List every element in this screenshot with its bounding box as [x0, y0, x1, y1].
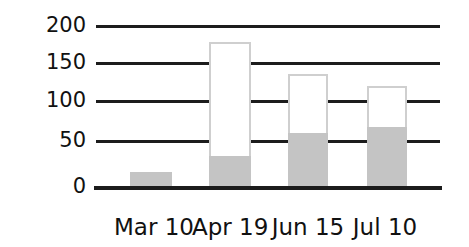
- ytick-label-150: 150: [14, 52, 86, 73]
- x-axis: Mar 10 Apr 19 Jun 15 Jul 10: [0, 203, 469, 247]
- xtick-label-apr-19: Apr 19: [192, 214, 268, 240]
- bar-segment-white-jun-15: [288, 74, 328, 133]
- bar-segment-gray-apr-19: [209, 156, 251, 186]
- axis-baseline-zero: [94, 186, 442, 190]
- xtick-label-mar-10: Mar 10: [114, 214, 190, 240]
- ytick-200: 200: [0, 15, 86, 36]
- bar-segment-gray-mar-10: [130, 172, 172, 186]
- xtick-label-jun-15: Jun 15: [270, 214, 346, 240]
- ytick-0: 0: [0, 176, 86, 197]
- plot-area: 200 150 100 50 0: [0, 0, 469, 200]
- bar-segment-gray-jul-10: [367, 127, 407, 186]
- gridline-200: [96, 25, 440, 28]
- gridline-150: [96, 62, 440, 65]
- ytick-100: 100: [0, 90, 86, 111]
- ytick-50: 50: [0, 130, 86, 151]
- bar-segment-white-apr-19: [209, 42, 251, 156]
- bar-segment-gray-jun-15: [288, 133, 328, 186]
- ytick-label-100: 100: [14, 90, 86, 111]
- ytick-label-200: 200: [14, 15, 86, 36]
- ytick-label-0: 0: [14, 176, 86, 197]
- ytick-150: 150: [0, 52, 86, 73]
- xtick-label-jul-10: Jul 10: [350, 214, 420, 240]
- bar-segment-white-jul-10: [367, 86, 407, 127]
- ytick-label-50: 50: [14, 130, 86, 151]
- chart-figure: 200 150 100 50 0 Mar 10 Apr 19 Jun 15 Ju…: [0, 0, 469, 247]
